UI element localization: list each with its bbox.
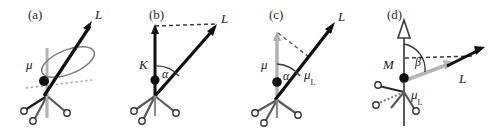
panel-c-label-alpha: α [283, 70, 289, 82]
atom-circle-2 [261, 120, 267, 126]
atom-circle-1 [375, 82, 381, 88]
L-vector-shaft [275, 28, 331, 100]
dashed-connector [155, 24, 215, 26]
dotted-reference-line [26, 80, 92, 88]
panel-a-label-mu: μ [26, 58, 33, 71]
panel-c: (c) L μ α μL [243, 0, 363, 132]
panel-d: (d) M β μL L [363, 0, 492, 132]
mu-L-base: μ [304, 67, 311, 82]
L-vector-shaft [44, 26, 90, 96]
atom-circle-1 [131, 108, 137, 114]
mu-arrowhead [273, 31, 281, 41]
molecule-leg-3 [277, 100, 297, 114]
panel-a: (a) L μ [0, 0, 123, 132]
panel-d-tag: (d) [387, 8, 402, 21]
atom-circle-2 [373, 102, 379, 108]
atom-circle-2 [139, 118, 145, 124]
L-vector-shaft [155, 30, 213, 96]
molecule-leg-1 [379, 86, 404, 92]
panel-d-label-mu-L: μL [411, 88, 422, 105]
molecule-leg-3 [47, 96, 66, 112]
panel-b-label-K: K [139, 58, 148, 71]
center-dot [272, 77, 282, 87]
panel-c-tag: (c) [269, 8, 283, 21]
atom-circle-1 [252, 110, 258, 116]
atom-circle-3 [295, 112, 301, 118]
panel-b-label-alpha: α [162, 68, 168, 80]
center-dot [399, 73, 409, 83]
panel-d-label-beta: β [415, 56, 421, 68]
L-vector-shaft [447, 50, 479, 66]
panel-d-label-L: L [459, 72, 466, 85]
center-dot [150, 75, 159, 84]
dashed-connector [278, 33, 309, 57]
figure-container: (a) L μ (b) L K [0, 0, 492, 132]
atom-circle-3 [64, 110, 70, 116]
panel-b: (b) L K α [123, 0, 243, 132]
panel-a-tag: (a) [28, 8, 42, 21]
atom-circle-3 [173, 110, 179, 116]
mu-dot [39, 76, 49, 86]
panel-c-label-mu: μ [261, 58, 268, 71]
L-arrowhead [474, 46, 485, 55]
molecule-leg-3 [155, 96, 175, 112]
atom-circle-2 [30, 118, 36, 124]
M-hollow-arrowhead [398, 20, 410, 38]
atom-circle-3 [413, 108, 419, 114]
panel-d-label-M: M [383, 58, 394, 71]
mu-L-subscript: L [311, 78, 316, 87]
panel-a-label-L: L [95, 8, 102, 21]
panel-a-graphics [0, 0, 123, 132]
molecule-leg-3 [391, 92, 404, 108]
panel-c-label-L: L [338, 10, 345, 23]
mu-L-base: μ [411, 87, 418, 102]
mu-L-subscript: L [418, 98, 423, 107]
panel-b-tag: (b) [149, 8, 164, 21]
panel-b-label-L: L [221, 12, 228, 25]
atom-circle-1 [21, 108, 27, 114]
panel-c-label-mu-L: μL [304, 68, 315, 85]
L-arrowhead [83, 21, 92, 31]
